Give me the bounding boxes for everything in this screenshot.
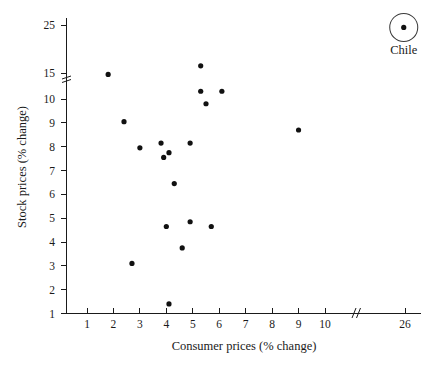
y-axis-tick-labels: 123456789101525 xyxy=(44,19,56,320)
y-tick-label-6: 6 xyxy=(49,188,55,200)
data-point xyxy=(180,245,185,250)
data-point xyxy=(137,145,142,150)
scatter-plot-figure: 123456789101525 Stock prices (% change) … xyxy=(0,0,435,366)
y-tick-label-15: 15 xyxy=(44,67,56,79)
data-point xyxy=(166,150,171,155)
annotation-label: Chile xyxy=(390,43,418,57)
y-axis: 123456789101525 Stock prices (% change) xyxy=(15,18,71,320)
data-point xyxy=(172,181,177,186)
y-axis-title: Stock prices (% change) xyxy=(15,106,29,228)
x-axis-title: Consumer prices (% change) xyxy=(172,339,317,353)
y-tick-label-2: 2 xyxy=(49,284,55,296)
data-point xyxy=(188,219,193,224)
y-tick-label-9: 9 xyxy=(49,117,55,129)
data-point xyxy=(166,301,171,306)
y-tick-label-8: 8 xyxy=(49,141,55,153)
y-tick-label-5: 5 xyxy=(49,212,55,224)
data-point xyxy=(198,63,203,68)
x-tick-label-5: 5 xyxy=(190,318,196,330)
data-point-series xyxy=(106,13,418,306)
x-axis-ticks xyxy=(87,308,405,314)
data-point xyxy=(158,140,163,145)
data-point xyxy=(106,72,111,77)
x-tick-label-7: 7 xyxy=(243,318,249,330)
x-axis: 1234567891026 Consumer prices (% change) xyxy=(67,308,422,354)
x-tick-label-4: 4 xyxy=(163,318,169,330)
x-tick-label-3: 3 xyxy=(137,318,143,330)
data-point xyxy=(198,89,203,94)
y-tick-label-4: 4 xyxy=(49,236,55,248)
data-point xyxy=(129,261,134,266)
data-point xyxy=(401,25,406,30)
y-tick-label-3: 3 xyxy=(49,260,55,272)
data-point xyxy=(161,155,166,160)
x-tick-label-1: 1 xyxy=(84,318,90,330)
x-axis-tick-labels: 1234567891026 xyxy=(84,318,411,330)
data-point xyxy=(219,89,224,94)
y-axis-ticks xyxy=(61,25,67,314)
data-point xyxy=(164,224,169,229)
x-tick-label-10: 10 xyxy=(319,318,331,330)
data-point xyxy=(209,224,214,229)
x-tick-label-8: 8 xyxy=(269,318,275,330)
x-tick-label-26: 26 xyxy=(399,318,411,330)
x-tick-label-2: 2 xyxy=(111,318,117,330)
y-tick-label-1: 1 xyxy=(49,308,55,320)
data-point xyxy=(203,101,208,106)
y-tick-label-7: 7 xyxy=(49,165,55,177)
x-tick-label-9: 9 xyxy=(296,318,302,330)
y-tick-label-25: 25 xyxy=(44,19,56,31)
y-tick-label-10: 10 xyxy=(44,93,56,105)
data-point xyxy=(188,140,193,145)
x-tick-label-6: 6 xyxy=(216,318,222,330)
data-point xyxy=(121,119,126,124)
chart-canvas: 123456789101525 Stock prices (% change) … xyxy=(0,0,435,366)
annotation-layer: Chile xyxy=(390,43,418,57)
data-point xyxy=(296,127,301,132)
